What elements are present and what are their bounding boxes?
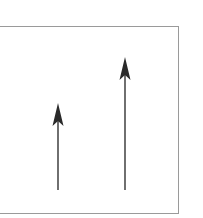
arrow-up-icon-tall bbox=[120, 57, 131, 190]
arrow-up-icon-short bbox=[53, 103, 64, 190]
arrow-layer bbox=[0, 0, 203, 218]
diagram-canvas bbox=[0, 0, 203, 218]
